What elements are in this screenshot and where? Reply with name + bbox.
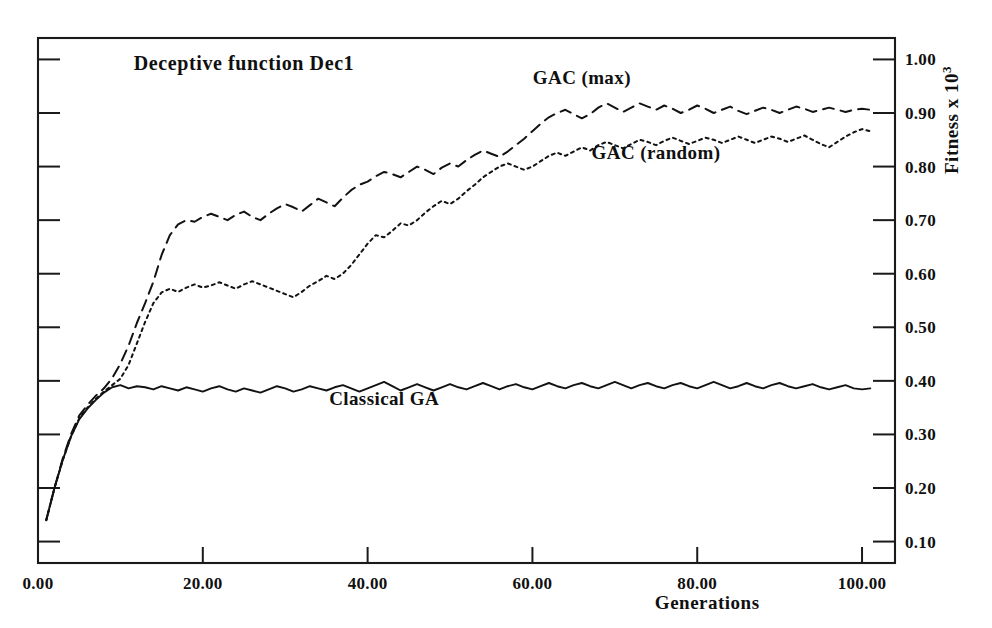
x-tick-label: 100.00 <box>838 574 887 593</box>
series-label-gac-max: GAC (max) <box>533 67 631 89</box>
x-tick-label: 80.00 <box>677 574 717 593</box>
y-tick-label: 0.60 <box>905 265 936 284</box>
series-label-classical-ga: Classical GA <box>329 388 439 409</box>
x-tick-label: 60.00 <box>513 574 553 593</box>
x-tick-label: 0.00 <box>23 574 54 593</box>
chart-canvas: 0.100.200.300.400.500.600.700.800.901.00… <box>0 0 992 628</box>
x-tick-label: 40.00 <box>348 574 388 593</box>
x-axis-label: Generations <box>655 592 760 613</box>
y-tick-label: 0.30 <box>905 425 936 444</box>
y-tick-label: 0.20 <box>905 479 936 498</box>
y-tick-label: 0.70 <box>905 211 936 230</box>
chart-title: Deceptive function Dec1 <box>134 52 354 75</box>
series-label-gac-random: GAC (random) <box>592 142 721 164</box>
y-tick-label: 0.90 <box>905 104 936 123</box>
y-tick-label: 1.00 <box>905 50 936 69</box>
y-axis-label: Fitness x 103 <box>939 66 962 174</box>
x-tick-label: 20.00 <box>183 574 223 593</box>
series-line-gac-max <box>46 103 870 520</box>
y-tick-label: 0.80 <box>905 158 936 177</box>
series-line-classical-ga <box>46 382 870 520</box>
series-line-gac-random <box>46 129 870 520</box>
plot-frame <box>38 38 895 563</box>
y-tick-label: 0.50 <box>905 318 936 337</box>
y-tick-label: 0.10 <box>905 533 936 552</box>
chart-page: 0.100.200.300.400.500.600.700.800.901.00… <box>0 0 992 628</box>
y-tick-label: 0.40 <box>905 372 936 391</box>
